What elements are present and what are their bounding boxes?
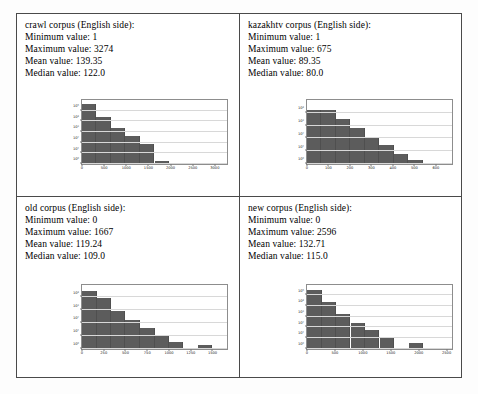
stats-block-old: old corpus (English side): Minimum value… bbox=[25, 202, 239, 262]
chart-old-histogram: 10⁰10¹10²10³10⁴0250500750100012501500 bbox=[59, 281, 234, 363]
histogram-bar bbox=[365, 330, 379, 349]
median-value: Median value: 80.0 bbox=[248, 67, 461, 79]
stats-block-crawl: crawl corpus (English side): Minimum val… bbox=[25, 19, 239, 79]
x-tick-label: 500 bbox=[331, 352, 338, 356]
y-gridline bbox=[82, 120, 227, 121]
y-tick-label: 10³ bbox=[73, 305, 79, 309]
y-tick-label: 10⁴ bbox=[298, 107, 304, 111]
y-gridline bbox=[307, 326, 452, 327]
y-gridline bbox=[82, 152, 227, 153]
mean-value: Mean value: 139.35 bbox=[25, 55, 239, 67]
y-tick-label: 10³ bbox=[298, 311, 304, 315]
plot-area: 10⁰10¹10²10³10⁴10⁵05001000150020002500 bbox=[306, 284, 453, 350]
x-tick-label: 2500 bbox=[442, 352, 451, 356]
x-tick-label: 500 bbox=[411, 167, 418, 171]
plot-area: 10⁰10¹10²10³10⁴0250500750100012501500 bbox=[81, 284, 228, 350]
y-tick-mark bbox=[305, 336, 307, 337]
y-tick-mark bbox=[80, 109, 82, 110]
histogram-bar bbox=[96, 117, 111, 164]
chart-crawl-histogram: 10⁰10¹10²10³10⁴10⁵0500100015002000250030… bbox=[59, 96, 234, 178]
y-tick-label: 10¹ bbox=[298, 332, 304, 336]
cell-new: new corpus (English side): Minimum value… bbox=[239, 196, 461, 378]
x-tick-label: 2000 bbox=[166, 167, 175, 171]
x-tick-label: 0 bbox=[306, 167, 308, 171]
x-tick-label: 600 bbox=[432, 167, 439, 171]
y-gridline bbox=[307, 150, 452, 151]
y-gridline bbox=[82, 309, 227, 310]
chart-kazakhtv-histogram: 10⁰10¹10²10³10⁴0100200300400500600 bbox=[284, 96, 459, 178]
y-gridline bbox=[307, 294, 452, 295]
y-tick-label: 10¹ bbox=[298, 146, 304, 150]
y-tick-mark bbox=[80, 309, 82, 310]
y-tick-label: 10⁴ bbox=[73, 116, 79, 120]
y-tick-mark bbox=[80, 334, 82, 335]
x-tick-label: 300 bbox=[368, 167, 375, 171]
y-tick-label: 10³ bbox=[298, 120, 304, 124]
y-tick-label: 10⁵ bbox=[73, 105, 79, 109]
histogram-bar bbox=[379, 145, 394, 164]
y-gridline bbox=[307, 337, 452, 338]
median-value: Median value: 109.0 bbox=[25, 250, 239, 262]
y-gridline bbox=[307, 305, 452, 306]
chart-new-histogram: 10⁰10¹10²10³10⁴10⁵05001000150020002500 bbox=[284, 281, 459, 363]
x-tick-label: 500 bbox=[101, 167, 108, 171]
y-gridline bbox=[82, 131, 227, 132]
y-gridline bbox=[307, 348, 452, 349]
x-tick-label: 1000 bbox=[164, 352, 173, 356]
y-tick-label: 10² bbox=[298, 322, 304, 326]
page-root: crawl corpus (English side): Minimum val… bbox=[0, 0, 478, 394]
histogram-bar bbox=[307, 290, 322, 348]
y-tick-label: 10⁴ bbox=[73, 292, 79, 296]
y-tick-label: 10² bbox=[73, 318, 79, 322]
histogram-bar bbox=[155, 335, 169, 348]
x-tick-label: 400 bbox=[389, 167, 396, 171]
minimum-value: Minimum value: 1 bbox=[248, 31, 461, 43]
histogram-bar bbox=[125, 136, 140, 164]
y-tick-label: 10¹ bbox=[73, 148, 79, 152]
y-tick-label: 10³ bbox=[73, 127, 79, 131]
median-value: Median value: 122.0 bbox=[25, 67, 239, 79]
y-gridline bbox=[82, 322, 227, 323]
y-tick-mark bbox=[305, 150, 307, 151]
stats-block-kazakhtv: kazakhtv corpus (English side): Minimum … bbox=[248, 19, 461, 79]
stats-grid: crawl corpus (English side): Minimum val… bbox=[16, 13, 462, 378]
histogram-bar bbox=[336, 119, 350, 164]
y-gridline bbox=[307, 112, 452, 113]
median-value: Median value: 115.0 bbox=[248, 250, 461, 262]
cell-old: old corpus (English side): Minimum value… bbox=[17, 196, 239, 378]
x-tick-label: 2500 bbox=[188, 167, 197, 171]
y-tick-mark bbox=[305, 304, 307, 305]
y-gridline bbox=[307, 316, 452, 317]
x-tick-label: 2000 bbox=[414, 352, 423, 356]
plot-area: 10⁰10¹10²10³10⁴10⁵0500100015002000250030… bbox=[81, 99, 228, 165]
maximum-value: Maximum value: 1667 bbox=[25, 226, 239, 238]
y-tick-mark bbox=[80, 296, 82, 297]
x-tick-label: 200 bbox=[347, 167, 354, 171]
x-tick-label: 0 bbox=[81, 352, 83, 356]
x-tick-label: 100 bbox=[325, 167, 332, 171]
corpus-heading: kazakhtv corpus (English side): bbox=[248, 19, 461, 31]
minimum-value: Minimum value: 1 bbox=[25, 31, 239, 43]
y-tick-mark bbox=[80, 141, 82, 142]
y-tick-label: 10⁰ bbox=[298, 343, 304, 347]
x-tick-label: 0 bbox=[81, 167, 83, 171]
y-tick-label: 10⁴ bbox=[298, 300, 304, 304]
y-gridline bbox=[307, 137, 452, 138]
histogram-bar bbox=[336, 314, 350, 348]
maximum-value: Maximum value: 675 bbox=[248, 43, 461, 55]
mean-value: Mean value: 89.35 bbox=[248, 55, 461, 67]
histogram-bar bbox=[97, 298, 111, 349]
minimum-value: Minimum value: 0 bbox=[248, 214, 461, 226]
y-gridline bbox=[82, 142, 227, 143]
x-tick-label: 1250 bbox=[186, 352, 195, 356]
histogram-bar bbox=[350, 128, 365, 164]
y-tick-mark bbox=[80, 321, 82, 322]
corpus-heading: new corpus (English side): bbox=[248, 202, 461, 214]
histogram-bar bbox=[111, 128, 125, 164]
cell-kazakhtv: kazakhtv corpus (English side): Minimum … bbox=[239, 14, 461, 196]
histogram-bar bbox=[82, 104, 96, 164]
x-tick-label: 750 bbox=[144, 352, 151, 356]
maximum-value: Maximum value: 3274 bbox=[25, 43, 239, 55]
y-tick-mark bbox=[305, 111, 307, 112]
x-tick-label: 1500 bbox=[386, 352, 395, 356]
